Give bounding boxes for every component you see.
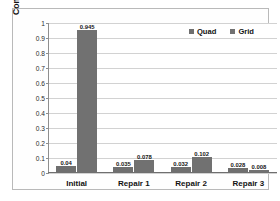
plot-area: 00.10.20.30.40.50.60.70.80.91 0.040.945I… [48, 23, 277, 173]
bar-value-label: 0.008 [252, 164, 267, 170]
y-tick-label: 0.4 [36, 110, 45, 117]
bar-value-label: 0.078 [137, 154, 152, 160]
bar-group: 0.0280.008Repair 3 [220, 23, 277, 172]
y-tick-label: 1 [41, 20, 45, 27]
bar-group: 0.0350.078Repair 1 [105, 23, 162, 172]
bar-grid[interactable]: 0.102 [192, 157, 212, 172]
y-tick-label: 0.7 [36, 65, 45, 72]
legend-swatch-icon [230, 29, 235, 34]
legend-item-quad[interactable]: Quad [189, 27, 216, 36]
bar-quad[interactable]: 0.035 [113, 167, 133, 172]
bar-series-layer: 0.040.945Initial0.0350.078Repair 10.0320… [48, 23, 277, 173]
y-tick-label: 0.2 [36, 140, 45, 147]
legend-swatch-icon [189, 29, 194, 34]
bar-value-label: 0.945 [80, 24, 95, 30]
bar-quad[interactable]: 0.032 [171, 167, 191, 172]
x-category-label: Repair 1 [105, 179, 162, 188]
chart-legend: QuadGrid [189, 27, 254, 36]
y-tick-label: 0.6 [36, 80, 45, 87]
y-tick-label: 0.1 [36, 155, 45, 162]
bar-quad[interactable]: 0.028 [228, 168, 248, 172]
y-tick-label: 0.9 [36, 35, 45, 42]
bar-value-label: 0.035 [116, 161, 131, 167]
bar-quad[interactable]: 0.04 [56, 166, 76, 172]
legend-label: Grid [238, 27, 254, 36]
x-category-label: Repair 3 [220, 179, 277, 188]
y-tick-label: 0.3 [36, 125, 45, 132]
bar-group: 0.0320.102Repair 2 [163, 23, 220, 172]
bar-value-label: 0.032 [173, 161, 188, 167]
bar-value-label: 0.04 [60, 160, 71, 166]
gridline [48, 173, 277, 174]
bar-grid[interactable]: 0.008 [249, 170, 269, 172]
x-category-label: Initial [48, 179, 105, 188]
y-axis-title: Computation Time [s] [11, 0, 25, 35]
y-tick-mark [46, 173, 49, 174]
legend-item-grid[interactable]: Grid [230, 27, 254, 36]
bar-group: 0.040.945Initial [48, 23, 105, 172]
bar-grid[interactable]: 0.078 [134, 160, 154, 172]
legend-label: Quad [197, 27, 216, 36]
bar-value-label: 0.028 [231, 162, 246, 168]
y-tick-label: 0.8 [36, 50, 45, 57]
bar-value-label: 0.102 [194, 151, 209, 157]
x-category-label: Repair 2 [163, 179, 220, 188]
y-tick-label: 0.5 [36, 95, 45, 102]
y-tick-label: 0 [41, 170, 45, 177]
bar-grid[interactable]: 0.945 [77, 30, 97, 172]
chart-frame: Computation Time [s] 00.10.20.30.40.50.6… [12, 8, 269, 190]
